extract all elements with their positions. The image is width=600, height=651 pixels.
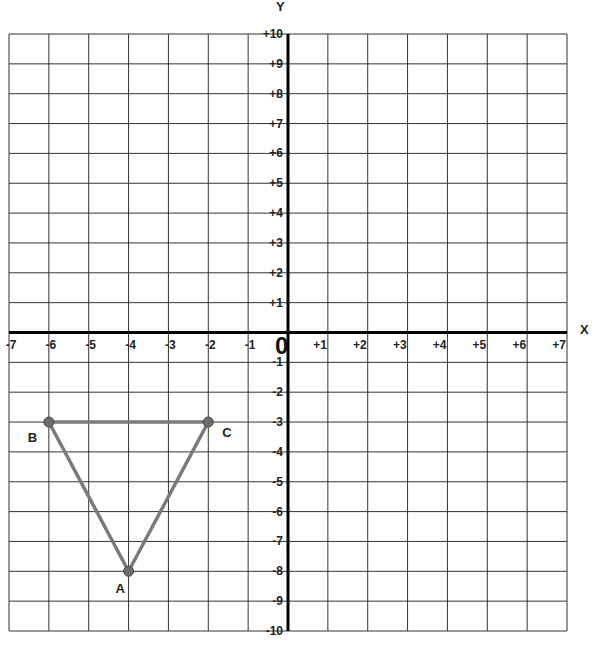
y-tick-label: +10 xyxy=(263,27,284,41)
y-tick-label: +7 xyxy=(269,117,283,131)
point-label-b: B xyxy=(28,430,37,445)
y-tick-label: +1 xyxy=(269,296,283,310)
y-tick-label: -7 xyxy=(272,534,283,548)
origin-label: 0 xyxy=(275,332,288,359)
y-tick-label: -5 xyxy=(272,475,283,489)
point-a xyxy=(124,566,134,576)
y-tick-label: -4 xyxy=(272,445,283,459)
y-tick-label: +6 xyxy=(269,146,283,160)
x-tick-label: +2 xyxy=(353,338,367,352)
y-tick-label: +4 xyxy=(269,206,283,220)
y-tick-label: -8 xyxy=(272,564,283,578)
x-tick-label: -7 xyxy=(6,338,17,352)
y-tick-label: -10 xyxy=(266,624,284,638)
point-label-a: A xyxy=(116,581,126,596)
x-tick-label: -3 xyxy=(165,338,176,352)
x-tick-label: +7 xyxy=(552,338,566,352)
x-tick-label: -2 xyxy=(205,338,216,352)
x-tick-label: -5 xyxy=(85,338,96,352)
x-tick-label: +4 xyxy=(433,338,447,352)
x-axis-label: X xyxy=(580,322,589,337)
point-b xyxy=(44,417,54,427)
point-label-c: C xyxy=(222,425,232,440)
y-tick-label: +9 xyxy=(269,57,283,71)
y-tick-label: +8 xyxy=(269,87,283,101)
y-axis-label: Y xyxy=(276,0,285,14)
coordinate-plane: -7-6-5-4-3-2-1+1+2+3+4+5+6+7+10+9+8+7+6+… xyxy=(0,0,600,651)
data-points: ABC xyxy=(28,417,232,596)
y-tick-label: -9 xyxy=(272,594,283,608)
x-tick-label: +1 xyxy=(313,338,327,352)
y-tick-label: +2 xyxy=(269,266,283,280)
x-tick-label: +6 xyxy=(512,338,526,352)
y-tick-label: -3 xyxy=(272,415,283,429)
x-tick-label: -4 xyxy=(125,338,136,352)
y-tick-label: +5 xyxy=(269,176,283,190)
y-tick-label: -6 xyxy=(272,505,283,519)
point-c xyxy=(203,417,213,427)
x-tick-label: +5 xyxy=(473,338,487,352)
y-tick-label: -2 xyxy=(272,385,283,399)
x-tick-label: -6 xyxy=(46,338,57,352)
x-tick-label: -1 xyxy=(245,338,256,352)
x-tick-label: +3 xyxy=(393,338,407,352)
y-tick-label: +3 xyxy=(269,236,283,250)
